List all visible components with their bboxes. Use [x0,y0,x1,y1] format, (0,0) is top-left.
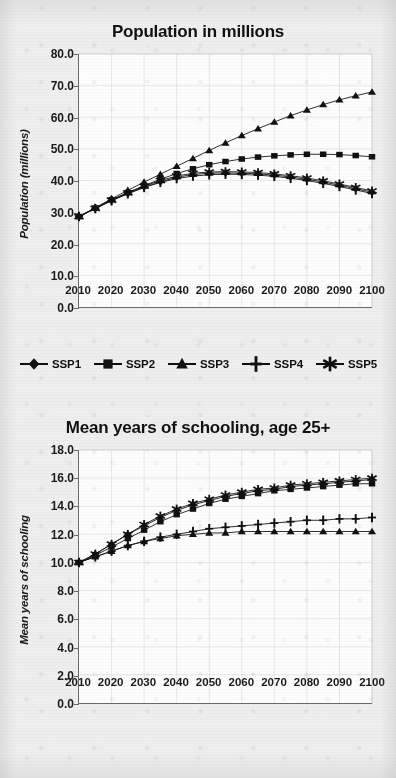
y-tick-label: 8.0 [57,584,74,598]
chart-panel-schooling: Mean years of schooling, age 25+ Mean ye… [0,392,396,778]
x-tick-label: 2100 [359,676,385,688]
x-tick-label: 2060 [229,284,255,296]
x-tick-label: 2040 [163,284,189,296]
legend-marker-plus-icon [241,356,271,372]
x-tick-label: 2050 [196,676,222,688]
x-tick-label: 2010 [65,284,91,296]
y-tick-label: 0.0 [57,301,74,315]
plot-canvas-schooling [78,450,372,704]
y-tick-label: 6.0 [57,612,74,626]
x-axis-labels-schooling: 2010202020302040205020602070208020902100 [78,676,372,696]
chart-title-population: Population in millions [0,0,396,42]
y-tick-label: 20.0 [51,238,74,252]
y-tick-label: 60.0 [51,111,74,125]
y-tick-label: 50.0 [51,142,74,156]
legend-item-ssp5: SSP5 [315,356,377,372]
y-tick-label: 10.0 [51,269,74,283]
chart-panel-population: Population in millions Population (milli… [0,0,396,392]
legend-item-ssp2: SSP2 [93,356,155,372]
legend-label: SSP4 [274,358,303,370]
legend-item-ssp1: SSP1 [19,356,81,372]
x-tick-label: 2060 [229,676,255,688]
legend-marker-asterisk-icon [315,356,345,372]
y-axis-labels-population: 0.010.020.030.040.050.060.070.080.0 [22,54,74,308]
y-tick-label: 10.0 [51,556,74,570]
chart-title-schooling: Mean years of schooling, age 25+ [0,392,396,438]
chart-legend: SSP1SSP2SSP3SSP4SSP5 [0,356,396,372]
y-tick-label: 80.0 [51,47,74,61]
legend-label: SSP5 [348,358,377,370]
legend-item-ssp4: SSP4 [241,356,303,372]
y-tick-mark [74,704,79,705]
x-tick-label: 2050 [196,284,222,296]
y-tick-label: 18.0 [51,443,74,457]
legend-marker-square-icon [93,356,123,372]
x-tick-label: 2080 [294,676,320,688]
x-tick-label: 2100 [359,284,385,296]
x-tick-label: 2080 [294,284,320,296]
legend-item-ssp3: SSP3 [167,356,229,372]
y-axis-labels-schooling: 0.02.04.06.08.010.012.014.016.018.0 [22,450,74,704]
plot-canvas-population [78,54,372,308]
legend-label: SSP3 [200,358,229,370]
legend-marker-triangle-icon [167,356,197,372]
legend-label: SSP1 [52,358,81,370]
x-tick-label: 2020 [98,676,124,688]
legend-marker-diamond-icon [19,356,49,372]
x-axis-labels-population: 2010202020302040205020602070208020902100 [78,284,372,304]
x-tick-label: 2030 [131,676,157,688]
x-tick-label: 2090 [327,676,353,688]
x-tick-label: 2010 [65,676,91,688]
y-tick-label: 0.0 [57,697,74,711]
legend-label: SSP2 [126,358,155,370]
plot-area-population: Population (millions) 0.010.020.030.040.… [0,48,396,320]
y-tick-label: 16.0 [51,471,74,485]
y-tick-mark [74,308,79,309]
y-tick-label: 12.0 [51,528,74,542]
y-tick-label: 14.0 [51,499,74,513]
y-tick-label: 4.0 [57,641,74,655]
x-tick-label: 2070 [261,284,287,296]
x-tick-label: 2070 [261,676,287,688]
x-tick-label: 2030 [131,284,157,296]
y-tick-label: 30.0 [51,206,74,220]
x-tick-label: 2020 [98,284,124,296]
y-tick-label: 70.0 [51,79,74,93]
x-tick-label: 2090 [327,284,353,296]
y-tick-label: 40.0 [51,174,74,188]
x-tick-label: 2040 [163,676,189,688]
